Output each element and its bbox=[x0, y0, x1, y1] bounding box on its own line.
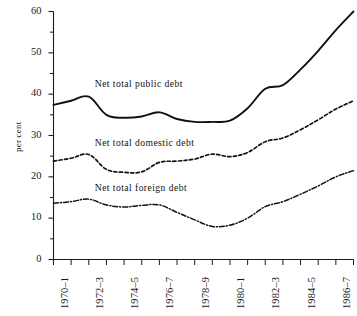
series-line-2 bbox=[54, 171, 354, 227]
y-tick-label: 40 bbox=[20, 87, 42, 98]
x-tick-label: 1978–9 bbox=[200, 276, 211, 308]
series-line-0 bbox=[54, 12, 354, 123]
x-tick-label: 1972–3 bbox=[94, 276, 105, 308]
y-tick-label: 0 bbox=[20, 253, 42, 264]
y-axis-title: per cent bbox=[13, 122, 23, 152]
chart-figure: 01020304050601970–11972–31974–51976–7197… bbox=[0, 0, 357, 316]
series-annotation-1: Net total domestic debt bbox=[95, 137, 195, 148]
series-annotation-0: Net total public debt bbox=[95, 78, 183, 89]
x-tick-label: 1974–5 bbox=[129, 276, 140, 308]
x-tick-label: 1984–5 bbox=[306, 276, 317, 308]
x-tick-label: 1976–7 bbox=[164, 276, 175, 308]
series-annotation-2: Net total foreign debt bbox=[95, 182, 187, 193]
x-tick-label: 1986–7 bbox=[341, 276, 352, 308]
y-tick-label: 20 bbox=[20, 170, 42, 181]
x-tick-label: 1970–1 bbox=[59, 276, 70, 308]
y-tick-label: 50 bbox=[20, 46, 42, 57]
plot-area bbox=[0, 0, 357, 316]
y-tick-label: 10 bbox=[20, 211, 42, 222]
y-tick-label: 60 bbox=[20, 5, 42, 16]
x-tick-label: 1980–1 bbox=[235, 276, 246, 308]
x-tick-label: 1982–3 bbox=[270, 276, 281, 308]
